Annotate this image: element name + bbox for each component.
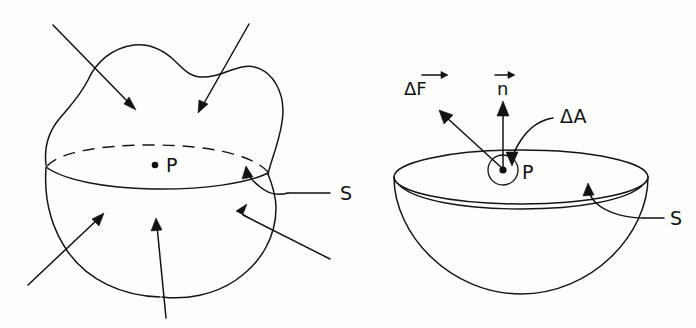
force-arrow-3 — [28, 213, 104, 285]
figure-canvas: P — [0, 0, 696, 328]
delta-a-leader — [506, 118, 553, 166]
normal-n-label: n — [497, 78, 508, 99]
blob-upper-outline — [46, 45, 283, 174]
right-point-p-label: P — [522, 161, 534, 183]
bowl-rim-outer-ellipse — [394, 150, 648, 204]
surface-s-leader-left — [242, 166, 330, 194]
delta-a-label: ΔA — [560, 105, 587, 127]
delta-f-vector-label-group: ΔF — [404, 72, 448, 100]
left-point-p-label: P — [166, 154, 178, 176]
force-arrow-1 — [53, 25, 136, 110]
force-arrow-5 — [236, 204, 330, 259]
delta-f-vector-arrow — [439, 110, 503, 169]
bowl-lower-outline — [46, 168, 160, 297]
force-arrow-2 — [198, 24, 249, 113]
left-panel: P — [28, 24, 352, 318]
delta-f-label: ΔF — [404, 78, 427, 99]
bowl-body-outline — [394, 177, 648, 294]
left-surface-s-label: S — [340, 182, 352, 204]
normal-vector-label-group: n — [495, 72, 515, 100]
rim-back-arc-dashed — [47, 145, 268, 172]
physics-diagram-svg: P — [0, 0, 696, 328]
normal-vector-arrow — [497, 101, 509, 169]
rim-front-arc — [46, 167, 268, 189]
blob-right-side — [162, 174, 276, 298]
right-surface-s-label: S — [670, 207, 682, 229]
right-panel: P ΔA ΔF — [394, 72, 682, 295]
point-p-dot — [152, 162, 159, 169]
surface-s-leader-right — [583, 183, 664, 218]
force-arrow-4 — [151, 218, 166, 318]
